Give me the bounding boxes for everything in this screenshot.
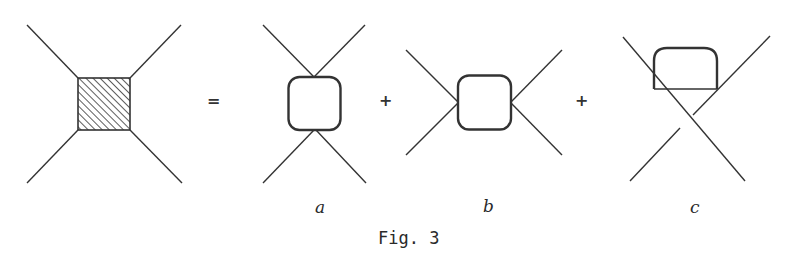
diagram-a <box>263 25 366 183</box>
diagram-b <box>406 50 562 155</box>
loop-c <box>654 48 717 89</box>
diagram-c <box>623 36 770 181</box>
panel-label-c: c <box>690 197 700 217</box>
plus-sign-2: + <box>575 91 588 110</box>
loop-a <box>289 77 341 130</box>
plus-sign-1: + <box>379 91 392 110</box>
equals-sign: = <box>207 91 220 110</box>
feynman-diagram-figure <box>0 0 795 258</box>
loop-b <box>458 76 511 130</box>
panel-label-a: a <box>315 197 325 217</box>
diagram-lhs <box>27 25 182 183</box>
panel-label-b: b <box>483 196 494 216</box>
hatched-blob <box>78 78 130 130</box>
figure-caption: Fig. 3 <box>378 228 439 248</box>
